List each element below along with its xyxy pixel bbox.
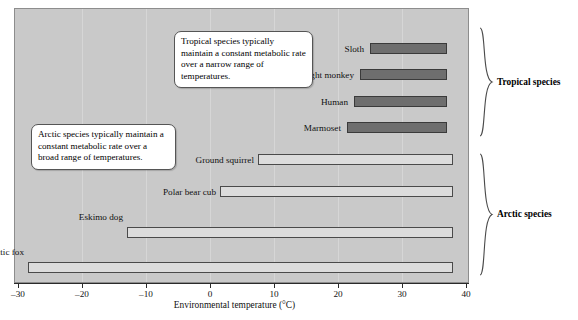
- bar-label-ground-squirrel: Ground squirrel: [174, 155, 254, 165]
- x-tick: [274, 283, 275, 288]
- x-tick: [338, 283, 339, 288]
- x-tick-label: 20: [333, 289, 342, 299]
- arctic-callout: Arctic species typically maintain a cons…: [31, 124, 176, 170]
- arctic-brace: [478, 152, 494, 277]
- x-tick-label: –10: [139, 289, 153, 299]
- x-tick-label: 40: [461, 289, 470, 299]
- x-tick: [210, 283, 211, 288]
- bar-night-monkey: [360, 69, 447, 80]
- tropical-brace: [478, 26, 494, 138]
- x-axis-title: Environmental temperature (°C): [0, 300, 469, 310]
- bar-label-eskimo-dog: Eskimo dog: [43, 212, 123, 222]
- bar-label-polar-bear-cub: Polar bear cub: [136, 187, 216, 197]
- bar-label-arctic-fox: Arctic fox: [0, 247, 24, 257]
- bar-sloth: [370, 43, 447, 54]
- bar-eskimo-dog: [127, 227, 453, 238]
- bar-ground-squirrel: [258, 154, 453, 165]
- x-tick: [146, 283, 147, 288]
- bar-label-marmoset: Marmoset: [263, 123, 341, 133]
- x-tick-label: 30: [397, 289, 406, 299]
- x-tick-label: –30: [11, 289, 25, 299]
- figure: Sloth Night monkey Human Marmoset Ground…: [0, 0, 578, 320]
- arctic-group-label: Arctic species: [497, 209, 552, 219]
- x-tick: [82, 283, 83, 288]
- x-tick-label: 10: [269, 289, 278, 299]
- x-tick-label: –20: [75, 289, 89, 299]
- tropical-group-label: Tropical species: [497, 77, 560, 87]
- x-tick: [466, 283, 467, 288]
- bar-polar-bear-cub: [220, 186, 453, 197]
- x-tick: [18, 283, 19, 288]
- bar-label-human: Human: [270, 97, 348, 107]
- bar-arctic-fox: [28, 262, 453, 273]
- tropical-callout: Tropical species typically maintain a co…: [174, 31, 313, 88]
- x-tick-label: 0: [208, 289, 213, 299]
- bar-marmoset: [347, 122, 447, 133]
- bar-human: [354, 96, 447, 107]
- x-tick: [402, 283, 403, 288]
